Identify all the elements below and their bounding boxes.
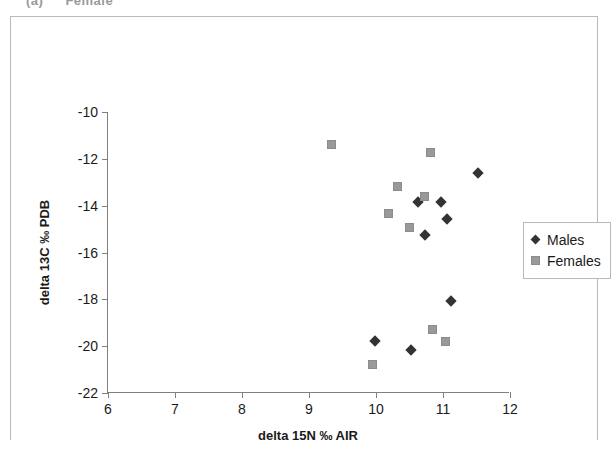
- data-point-males: [441, 213, 452, 224]
- y-axis-tick-label: -16: [78, 245, 98, 261]
- data-point-males: [369, 336, 380, 347]
- x-axis-tick-label: 11: [436, 401, 451, 417]
- y-axis-tick: [102, 206, 108, 207]
- y-axis-title: delta 13C ‰ PDB: [35, 112, 55, 393]
- data-point-females: [327, 140, 336, 149]
- legend-label-males: Males: [547, 232, 584, 248]
- figure-caption-number: (a): [26, 0, 43, 8]
- data-point-males: [445, 295, 456, 306]
- data-point-females: [368, 360, 377, 369]
- figure-frame: delta 13C ‰ PDB -10-12-14-16-18-20-22678…: [10, 16, 598, 440]
- data-point-females: [441, 337, 450, 346]
- y-axis-tick-label: -18: [78, 291, 98, 307]
- males-diamond-icon: [531, 235, 541, 245]
- data-point-females: [428, 325, 437, 334]
- y-axis-tick-label: -20: [78, 338, 98, 354]
- data-point-females: [384, 209, 393, 218]
- legend-label-females: Females: [547, 253, 601, 269]
- x-axis-tick: [443, 392, 444, 398]
- data-point-males: [472, 167, 483, 178]
- data-point-males: [405, 344, 416, 355]
- y-axis-tick-label: -22: [78, 385, 98, 401]
- x-axis-tick-label: 9: [305, 401, 313, 417]
- data-point-males: [435, 196, 446, 207]
- y-axis-tick: [102, 253, 108, 254]
- females-square-icon: [531, 256, 540, 265]
- data-point-males: [419, 229, 430, 240]
- plot-area: -10-12-14-16-18-20-226789101112: [107, 112, 509, 393]
- x-axis-tick-label: 8: [238, 401, 246, 417]
- x-axis-tick-label: 10: [368, 401, 384, 417]
- y-axis-tick-label: -14: [78, 198, 98, 214]
- legend-item-males: Males: [531, 229, 601, 250]
- y-axis-tick: [102, 299, 108, 300]
- data-point-females: [405, 223, 414, 232]
- x-axis-tick: [175, 392, 176, 398]
- chart-legend: Males Females: [523, 222, 611, 279]
- y-axis-tick: [102, 346, 108, 347]
- y-axis-tick-label: -12: [78, 151, 98, 167]
- figure-caption-text: Female: [65, 0, 113, 8]
- legend-item-females: Females: [531, 250, 601, 271]
- x-axis-tick: [108, 392, 109, 398]
- x-axis-tick: [510, 392, 511, 398]
- x-axis-tick: [376, 392, 377, 398]
- data-point-females: [393, 182, 402, 191]
- x-axis-title: delta 15N ‰ AIR: [107, 428, 509, 443]
- x-axis-tick: [309, 392, 310, 398]
- x-axis-tick: [242, 392, 243, 398]
- data-point-females: [420, 192, 429, 201]
- x-axis-tick-label: 6: [104, 401, 112, 417]
- y-axis-tick: [102, 112, 108, 113]
- y-axis-tick: [102, 159, 108, 160]
- data-point-females: [426, 148, 435, 157]
- figure-caption: (a)Female: [26, 0, 113, 8]
- x-axis-tick-label: 12: [502, 401, 518, 417]
- y-axis-tick-label: -10: [78, 104, 98, 120]
- plot-points-layer: [108, 112, 509, 392]
- x-axis-tick-label: 7: [171, 401, 179, 417]
